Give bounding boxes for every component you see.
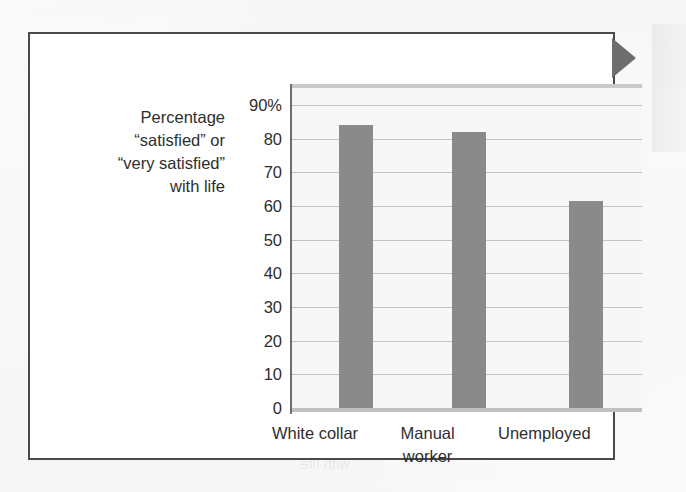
x-tick-label-line: Manual xyxy=(369,422,486,445)
y-axis-label-line-3: “very satisfied” xyxy=(60,152,225,175)
page-edge-marker-triangle xyxy=(612,38,636,78)
x-tick-label: Unemployed xyxy=(486,422,603,445)
x-tick-label-line: Unemployed xyxy=(486,422,603,445)
x-tick-label-line: worker xyxy=(369,445,486,468)
x-tick-label: Manualworker xyxy=(369,422,486,468)
y-axis-label-line-1: Percentage xyxy=(60,106,225,129)
y-tick-label: 10 xyxy=(222,366,282,383)
y-axis-label: Percentage “satisfied” or “very satisfie… xyxy=(60,106,225,198)
y-tick-label: 30 xyxy=(222,299,282,316)
x-axis-baseline xyxy=(292,408,642,412)
bar xyxy=(452,132,486,408)
facing-page-edge xyxy=(652,24,686,152)
y-tick-label: 20 xyxy=(222,333,282,350)
y-tick-label: 0 xyxy=(222,400,282,417)
y-tick-label: 60 xyxy=(222,198,282,215)
x-axis-tick-labels: White collarManualworkerUnemployed xyxy=(292,422,642,482)
y-tick-label: 40 xyxy=(222,265,282,282)
plot-top-band xyxy=(292,84,642,88)
gridline xyxy=(292,105,642,106)
bar xyxy=(569,201,603,408)
x-tick-label: White collar xyxy=(257,422,374,445)
y-axis-label-line-2: “satisfied” or xyxy=(60,129,225,152)
y-tick-label: 50 xyxy=(222,232,282,249)
plot-area xyxy=(292,84,642,412)
figure-frame: Percentage “satisfied” or “very satisfie… xyxy=(28,32,615,460)
y-tick-label: 80 xyxy=(222,131,282,148)
bar xyxy=(339,125,373,408)
scanned-page: very satisfied with life Percentage “sat… xyxy=(0,0,686,492)
y-tick-label: 90% xyxy=(222,97,282,114)
y-axis-label-line-4: with life xyxy=(60,175,225,198)
bar-chart: Percentage “satisfied” or “very satisfie… xyxy=(30,34,613,458)
y-tick-label: 70 xyxy=(222,164,282,181)
x-tick-label-line: White collar xyxy=(257,422,374,445)
